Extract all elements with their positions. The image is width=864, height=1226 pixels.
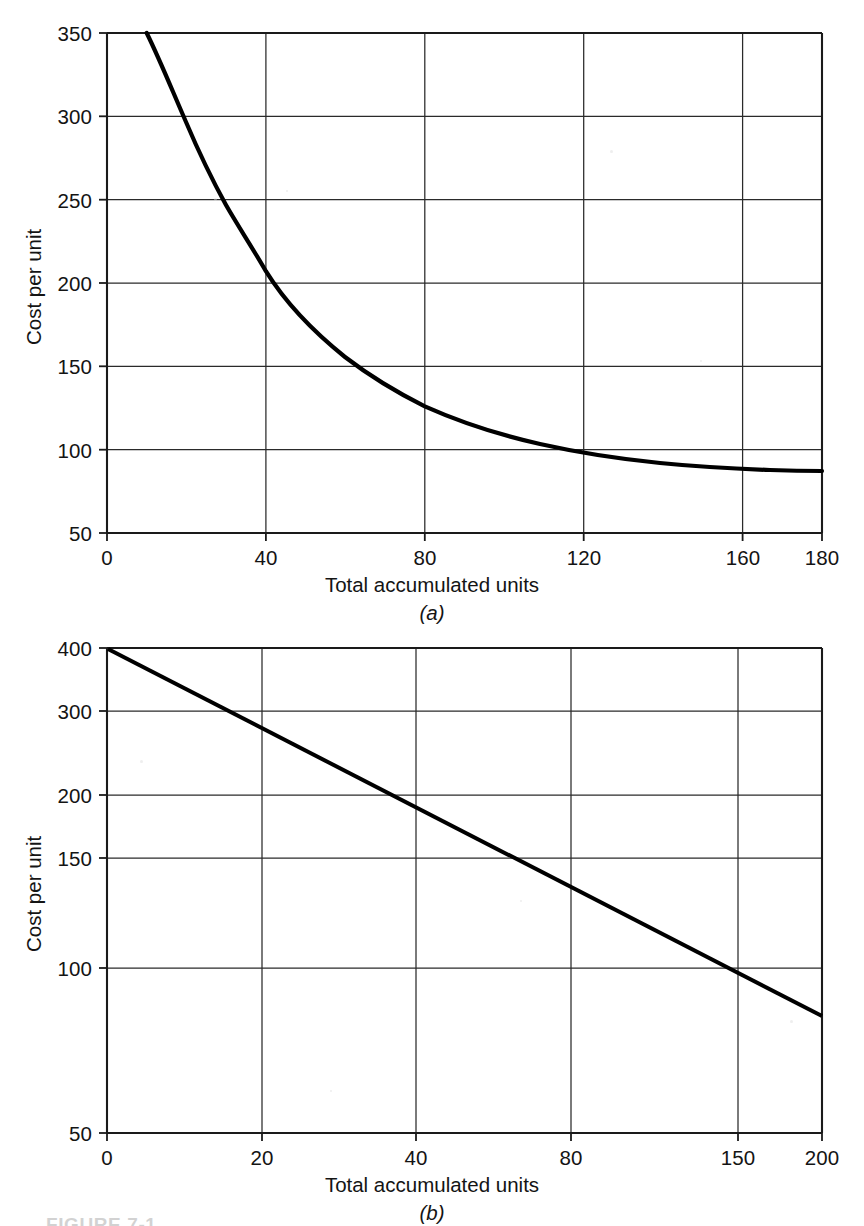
panel-a-ytick-350: 350 [30, 22, 92, 46]
panel-a-xtick-40: 40 [236, 546, 296, 570]
panel-b-plot [0, 612, 864, 1226]
learning-curve-figure: 350 300 250 200 150 100 50 0 40 80 120 1… [0, 0, 864, 1226]
scan-speck [610, 150, 613, 153]
panel-a-xtick-160: 160 [713, 546, 773, 570]
panel-b-xtick-80: 80 [541, 1146, 601, 1170]
panel-b-xtick-20: 20 [232, 1146, 292, 1170]
scan-speck [520, 900, 522, 902]
panel-a-gridlines [107, 33, 822, 533]
panel-b-ytick-200: 200 [30, 784, 92, 808]
panel-b-gridlines [107, 648, 822, 1133]
panel-b-y-axis-title: Cost per unit [22, 836, 46, 952]
panel-a-ytick-300: 300 [30, 105, 92, 129]
panel-b-ytick-300: 300 [30, 700, 92, 724]
panel-a-xtick-180: 180 [792, 546, 852, 570]
scan-speck [330, 1090, 332, 1092]
scan-speck [286, 190, 288, 192]
panel-a-xtick-120: 120 [554, 546, 614, 570]
panel-a-plot [0, 0, 864, 615]
panel-a-ytick-250: 250 [30, 189, 92, 213]
panel-a-y-axis-title: Cost per unit [22, 229, 46, 345]
panel-a-xtick-80: 80 [395, 546, 455, 570]
scan-speck [214, 198, 217, 201]
panel-a-xtick-0: 0 [77, 546, 137, 570]
panel-b-xtick-150: 150 [708, 1146, 768, 1170]
panel-b-tickmarks [99, 648, 822, 1141]
chart-panel-b: 400 300 200 150 100 50 0 20 40 80 150 20… [0, 612, 864, 1226]
panel-b-ytick-100: 100 [30, 957, 92, 981]
panel-b-xtick-40: 40 [386, 1146, 446, 1170]
panel-a-ytick-50: 50 [30, 522, 92, 546]
panel-b-xtick-0: 0 [77, 1146, 137, 1170]
panel-b-x-axis-title: Total accumulated units [0, 1173, 864, 1197]
panel-a-curve [147, 33, 822, 471]
panel-a-ytick-100: 100 [30, 439, 92, 463]
panel-b-ytick-400: 400 [30, 637, 92, 661]
panel-a-ytick-150: 150 [30, 355, 92, 379]
panel-b-ytick-50: 50 [30, 1122, 92, 1146]
chart-panel-a: 350 300 250 200 150 100 50 0 40 80 120 1… [0, 0, 864, 615]
scan-speck [140, 760, 143, 763]
panel-a-x-axis-title: Total accumulated units [0, 573, 864, 597]
panel-b-frame [107, 648, 822, 1133]
panel-a-tickmarks [99, 33, 822, 541]
scan-speck [790, 1020, 793, 1023]
panel-b-xtick-200: 200 [792, 1146, 852, 1170]
figure-caption-partial: FIGURE 7-1 [46, 1214, 346, 1226]
scan-speck [700, 360, 702, 362]
panel-b-line [108, 649, 822, 1016]
